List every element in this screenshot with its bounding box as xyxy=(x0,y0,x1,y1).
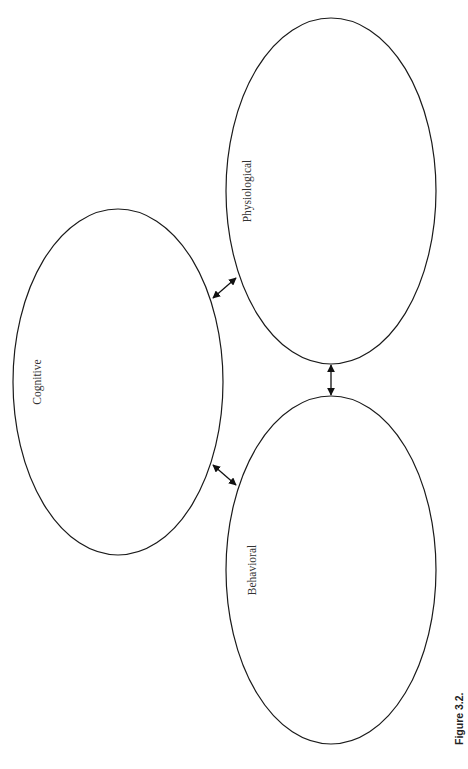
node-physiological: Physiological xyxy=(226,18,436,364)
node-behavioral: Behavioral xyxy=(226,396,436,744)
physiological-ellipse xyxy=(226,18,436,364)
three-component-diagram: Physiological Cognitive Behavioral Figur… xyxy=(0,0,468,769)
cognitive-label: Cognitive xyxy=(31,359,44,404)
physiological-label: Physiological xyxy=(241,160,254,223)
arrow-cognitive-behavioral xyxy=(213,465,236,485)
behavioral-label: Behavioral xyxy=(246,545,258,595)
figure-caption: Figure 3.2. xyxy=(453,692,465,745)
node-cognitive: Cognitive xyxy=(13,209,223,555)
arrow-cognitive-physiological xyxy=(213,278,236,298)
cognitive-ellipse xyxy=(13,209,223,555)
